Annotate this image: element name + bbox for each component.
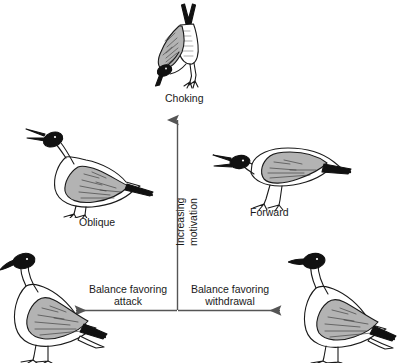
bird-oblique: [22, 122, 154, 218]
label-withdrawal-line1: Balance favoring: [180, 283, 280, 295]
bird-upright-right: [288, 248, 397, 363]
axis-label-motivation: motivation: [187, 198, 199, 246]
label-balance-favoring-attack: Balance favoring attack: [78, 283, 178, 308]
label-withdrawal-line2: withdrawal: [180, 295, 280, 307]
label-forward: Forward: [250, 206, 289, 218]
bird-forward: [212, 142, 352, 214]
axis-label-increasing: Increasing: [174, 198, 186, 246]
label-attack-line1: Balance favoring: [78, 283, 178, 295]
label-oblique: Oblique: [79, 216, 115, 228]
label-balance-favoring-withdrawal: Balance favoring withdrawal: [180, 283, 280, 308]
label-choking: Choking: [165, 92, 225, 104]
bird-choking: [146, 2, 226, 94]
label-attack-line2: attack: [78, 295, 178, 307]
gull-display-diagram: Choking: [0, 0, 397, 363]
